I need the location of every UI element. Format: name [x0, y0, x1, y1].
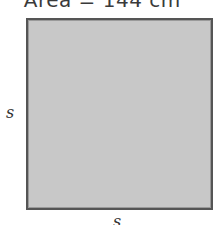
square-shape	[26, 18, 213, 210]
area-title: Area = 144 cm²	[0, 0, 213, 12]
side-label-bottom: s	[113, 212, 121, 225]
side-label-left: s	[6, 103, 14, 122]
